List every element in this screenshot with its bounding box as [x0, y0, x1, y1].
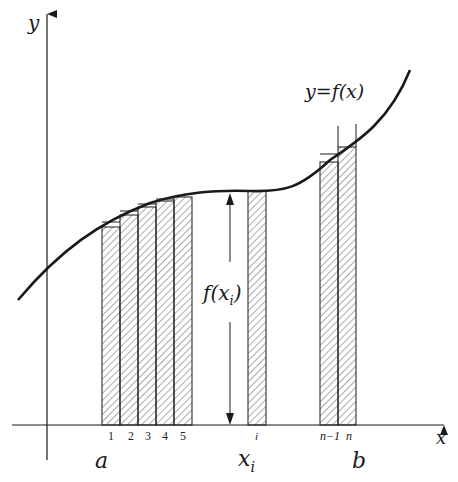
- sample-point-label: xi: [238, 446, 255, 475]
- tick-5: 5: [180, 429, 186, 443]
- rectangle-i: [248, 191, 266, 425]
- riemann-sum-diagram: y x y=f(x) f(xi) 1 2 3 4 5 i n−1 n a b x…: [0, 0, 458, 482]
- tick-n: n: [346, 429, 352, 443]
- rectangle-4: [156, 199, 174, 425]
- tick-n-minus-1: n−1: [320, 429, 340, 443]
- height-label-suffix: ): [233, 281, 242, 305]
- a-label: a: [95, 448, 108, 473]
- tick-4: 4: [162, 429, 168, 443]
- rectangle-1: [102, 222, 120, 425]
- tick-i: i: [255, 430, 258, 442]
- height-label-prefix: f(x: [201, 281, 229, 305]
- curve-label: y=f(x): [304, 80, 364, 102]
- b-label: b: [352, 448, 366, 473]
- subinterval-labels: 1 2 3 4 5 i n−1 n: [108, 429, 352, 443]
- sample-point-base: x: [238, 446, 251, 471]
- rectangle-2: [120, 211, 138, 425]
- rectangle-n: [338, 124, 356, 425]
- tick-2: 2: [128, 429, 134, 443]
- height-indicator: [226, 193, 234, 425]
- rectangle-3: [138, 204, 156, 425]
- height-label: f(xi): [201, 281, 241, 308]
- tick-3: 3: [145, 429, 151, 443]
- x-axis-label: x: [436, 427, 446, 448]
- tick-1: 1: [108, 429, 114, 443]
- rectangle-n-minus-1: [320, 154, 338, 425]
- rectangle-5: [174, 197, 192, 425]
- y-axis-label: y: [27, 11, 40, 35]
- sample-point-subscript: i: [250, 459, 254, 475]
